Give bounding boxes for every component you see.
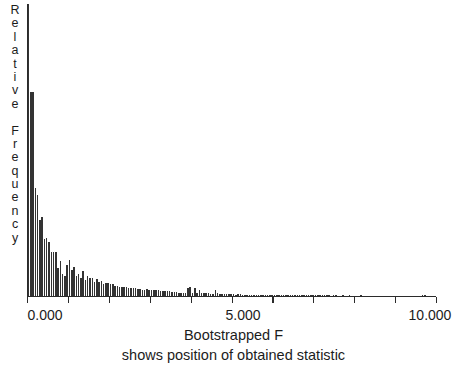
y-axis-label-char: r: [13, 138, 17, 151]
y-axis-label-char: R: [10, 4, 19, 17]
histogram-bar: [89, 278, 91, 296]
y-axis-label-char: c: [12, 218, 18, 231]
y-axis-label-char: e: [12, 17, 19, 30]
plot-area: [27, 4, 437, 296]
y-axis-label-char: y: [12, 232, 18, 245]
histogram-bar: [110, 284, 112, 296]
y-axis-label-space: [13, 111, 16, 124]
histogram-bar: [48, 242, 50, 296]
histogram-bar: [98, 282, 100, 296]
histogram-bar: [62, 274, 64, 296]
histogram-bar: [37, 195, 39, 296]
histogram-bar: [78, 274, 80, 296]
histogram-bar: [130, 288, 132, 296]
x-axis-tick: [232, 297, 233, 303]
histogram-bar: [119, 287, 121, 296]
histogram-bar: [107, 283, 109, 296]
x-axis-tick: [313, 297, 314, 303]
x-axis-tick: [191, 297, 192, 303]
y-axis-label-char: F: [11, 125, 19, 138]
bootstrap-f-histogram-figure: Relative Frequency 0.0005.00010.000 Boot…: [0, 0, 467, 376]
histogram-bar: [57, 268, 59, 296]
x-axis-tick: [395, 297, 396, 303]
histogram-bar: [189, 287, 191, 296]
y-axis-label-char: u: [12, 178, 19, 191]
x-axis-tick-label: 0.000: [27, 307, 62, 324]
x-axis-tick: [354, 297, 355, 303]
x-axis-subtitle: shows position of obtained statistic: [0, 345, 467, 365]
x-axis-tick-label: 5.000: [225, 307, 260, 324]
y-axis-label-char: e: [12, 191, 19, 204]
histogram-bar: [114, 286, 116, 297]
x-axis-tick-label: 10.000: [409, 307, 452, 324]
x-axis-caption: Bootstrapped F shows position of obtaine…: [0, 325, 467, 365]
y-axis-label-char: n: [12, 205, 19, 218]
histogram-bar: [28, 4, 30, 296]
histogram-bar: [69, 260, 71, 297]
histogram-bar: [73, 267, 75, 296]
x-axis-tick: [68, 297, 69, 303]
histogram-bar: [139, 289, 141, 296]
histogram-bars: [27, 4, 437, 296]
x-axis-tick: [436, 297, 437, 303]
y-axis-label-char: q: [12, 165, 19, 178]
x-axis: [27, 296, 436, 305]
y-axis-label-char: e: [12, 98, 19, 111]
histogram-bar: [41, 217, 43, 296]
y-axis-label-char: e: [12, 151, 19, 164]
x-axis-title: Bootstrapped F: [0, 325, 467, 345]
y-axis-label-char: l: [14, 31, 17, 44]
histogram-bar: [128, 288, 130, 296]
y-axis-label: Relative Frequency: [6, 4, 24, 300]
histogram-bar: [123, 287, 125, 296]
y-axis-label-char: t: [13, 58, 16, 71]
histogram-bar: [53, 252, 55, 296]
y-axis-label-char: a: [12, 44, 19, 57]
histogram-bar: [32, 92, 34, 296]
x-axis-tick: [272, 297, 273, 303]
histogram-bar: [82, 271, 84, 296]
x-axis-tick: [150, 297, 151, 303]
histogram-bar: [135, 288, 137, 296]
y-axis-label-char: i: [14, 71, 17, 84]
histogram-bar: [66, 265, 68, 296]
x-axis-tick: [109, 297, 110, 303]
histogram-bar: [94, 282, 96, 296]
x-axis-tick-labels: 0.0005.00010.000: [0, 307, 467, 325]
histogram-bar: [46, 238, 48, 296]
y-axis-label-char: v: [12, 84, 18, 97]
x-axis-tick: [27, 297, 28, 303]
histogram-bar: [87, 276, 89, 296]
histogram-bar: [103, 284, 105, 296]
